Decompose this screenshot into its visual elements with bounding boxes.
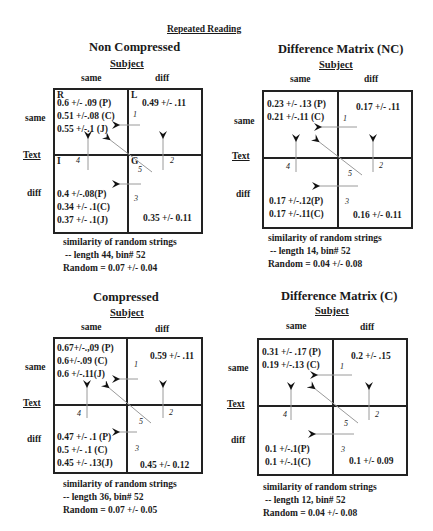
arrow-group-dc <box>291 375 369 434</box>
arrow-group-dnc <box>296 127 373 186</box>
transition-arrows <box>0 0 433 531</box>
arrow-group-c <box>87 379 163 432</box>
arrow-group-nc <box>88 125 163 184</box>
